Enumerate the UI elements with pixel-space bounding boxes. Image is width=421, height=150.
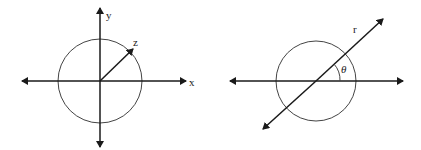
z-vector-arrow [100,49,133,81]
figure-cartesian: x y z [22,8,195,147]
figure-polar: r θ [230,19,403,129]
r-line-lower [263,81,316,129]
y-axis-label: y [106,9,112,21]
theta-label: θ [341,63,347,75]
r-label: r [353,23,357,35]
theta-angle-arc [334,64,340,81]
z-vector-label: z [133,36,138,48]
r-line-upper [316,19,383,81]
x-axis-label: x [189,76,195,88]
diagram-canvas: x y z r θ [0,0,421,150]
